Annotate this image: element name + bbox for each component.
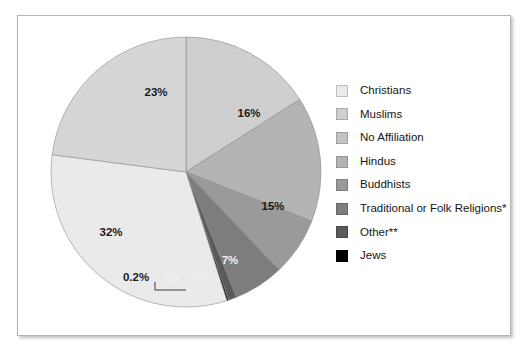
legend-label: Other** xyxy=(360,227,398,239)
legend-label: Christians xyxy=(360,85,411,97)
legend-item[interactable]: Muslims xyxy=(336,103,516,127)
legend-item[interactable]: Christians xyxy=(336,79,516,103)
pie-chart-svg: 23% 16% 15% 32% 7% 6% 1% 0.2% xyxy=(30,20,350,320)
pie-slices xyxy=(51,37,321,307)
slice-value-jews: 0.2% xyxy=(123,271,149,283)
legend-swatch xyxy=(336,108,348,120)
legend-label: Muslims xyxy=(360,109,402,121)
slice-value-hindus: 15% xyxy=(261,200,284,212)
pie-slice[interactable] xyxy=(52,37,186,172)
pie-chart: 23% 16% 15% 32% 7% 6% 1% 0.2% Christians… xyxy=(0,0,527,354)
legend-item[interactable]: Traditional or Folk Religions* xyxy=(336,197,516,221)
legend-label: Traditional or Folk Religions* xyxy=(360,203,507,215)
legend: ChristiansMuslimsNo AffiliationHindusBud… xyxy=(336,79,516,268)
legend-label: Buddhists xyxy=(360,179,411,191)
slice-value-muslims: 16% xyxy=(237,107,260,119)
legend-swatch xyxy=(336,85,348,97)
legend-item[interactable]: Hindus xyxy=(336,150,516,174)
legend-item[interactable]: Jews xyxy=(336,244,516,268)
legend-label: Jews xyxy=(360,250,386,262)
legend-label: Hindus xyxy=(360,156,396,168)
legend-swatch xyxy=(336,156,348,168)
legend-swatch xyxy=(336,250,348,262)
legend-label: No Affiliation xyxy=(360,132,424,144)
slice-value-buddhists: 7% xyxy=(222,254,239,266)
slice-value-traditional: 6% xyxy=(192,271,209,283)
slice-value-other: 1% xyxy=(164,271,181,283)
legend-item[interactable]: Other** xyxy=(336,221,516,245)
legend-item[interactable]: Buddhists xyxy=(336,173,516,197)
legend-swatch xyxy=(336,203,348,215)
legend-swatch xyxy=(336,132,348,144)
legend-item[interactable]: No Affiliation xyxy=(336,126,516,150)
legend-swatch xyxy=(336,226,348,238)
legend-swatch xyxy=(336,179,348,191)
slice-value-no-affiliation: 23% xyxy=(144,86,167,98)
slice-value-christians: 32% xyxy=(99,226,122,238)
